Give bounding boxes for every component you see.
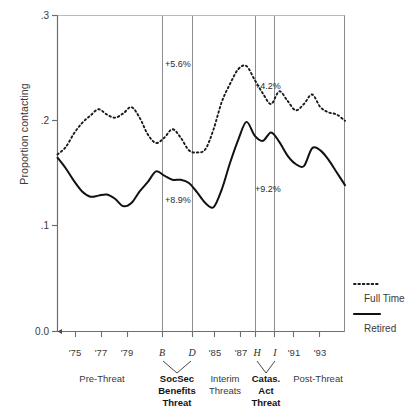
axes-group [57,15,345,334]
x-tick-label-B: B [159,347,165,358]
period-label-socsec-3: Threat [162,397,192,408]
chart-canvas: .3 .2 .1 0.0 '75 [0,0,418,413]
period-label-interim-1: Interim [210,373,239,384]
x-tick-labels-group: '75 '77 '79 B D '85 '87 H I '91 '93 [69,347,326,358]
y-ticks-group: .3 .2 .1 0.0 [35,10,57,337]
annotation-retired-catas: +9.2% [255,184,281,194]
y-tick-label-2: .2 [41,115,50,126]
series-line-retired [58,122,346,208]
series-group [58,65,346,207]
x-tick-label-79: '79 [121,347,133,358]
legend-label-full-time: Full Time [364,293,405,304]
chart-figure: Proportion contacting .3 .2 .1 0.0 [0,0,418,413]
period-label-catas-3: Threat [251,397,281,408]
y-axis-title: Proportion contacting [18,64,30,204]
annotation-retired-socsec: +8.9% [165,195,191,205]
y-tick-label-3: .3 [41,10,50,21]
period-label-interim-2: Threats [209,385,241,396]
period-label-socsec-2: Benefits [158,385,195,396]
series-line-full-time [58,65,346,154]
legend-label-retired: Retired [364,323,396,334]
annotation-full-time-socsec: +5.6% [165,59,191,69]
x-tick-label-77: '77 [95,347,107,358]
x-ticks-group [76,332,320,338]
period-label-post-threat: Post-Threat [293,373,343,384]
x-tick-label-93: '93 [314,347,326,358]
annotation-full-time-catas: +4.2% [255,81,281,91]
legend-group: Full Time Retired [354,284,405,334]
period-label-pre-threat: Pre-Threat [79,373,125,384]
y-tick-label-1: .1 [41,220,50,231]
period-label-socsec-1: SocSec [160,373,194,384]
x-tick-label-85: '85 [209,347,221,358]
period-brace-group [163,361,275,373]
x-tick-label-D: D [187,347,196,358]
period-label-catas-2: Act [258,385,274,396]
x-tick-label-I: I [272,347,277,358]
x-tick-label-87: '87 [235,347,247,358]
brace-catas [257,361,275,373]
brace-socsec [163,361,191,373]
x-tick-label-H: H [252,347,261,358]
x-tick-label-91: '91 [288,347,300,358]
period-labels-group: Pre-Threat SocSec Benefits Threat Interi… [79,373,343,408]
x-tick-label-75: '75 [69,347,81,358]
axis-origin-marker [58,329,63,334]
period-label-catas-1: Catas. [252,373,281,384]
y-tick-label-0: 0.0 [35,326,49,337]
